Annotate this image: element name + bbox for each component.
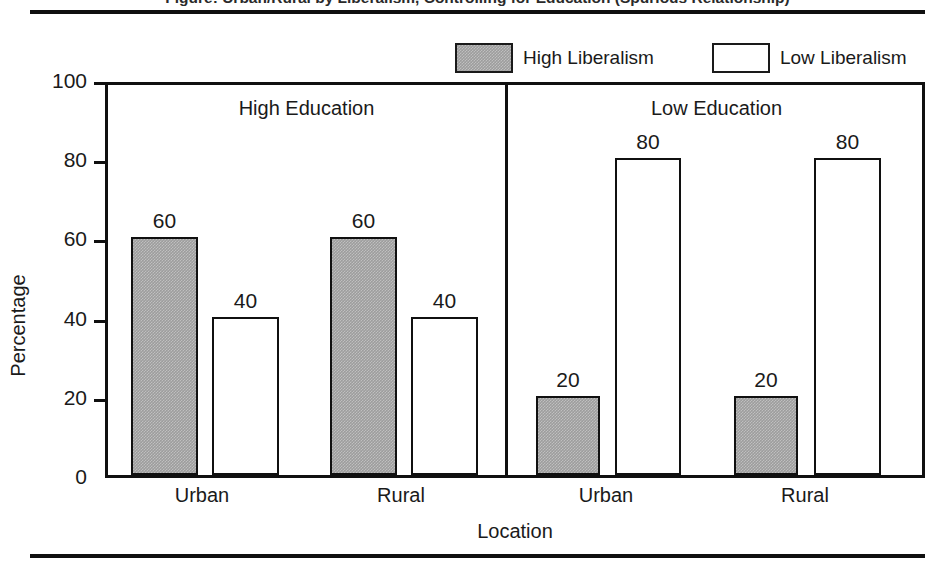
bar-value-label: 80 xyxy=(636,130,659,154)
bottom-rule xyxy=(30,554,925,558)
bar-low-education-rural-high-liberalism: 20 xyxy=(734,396,798,475)
bar-value-label: 40 xyxy=(234,289,257,313)
bar-low-education-urban-high-liberalism: 20 xyxy=(536,396,600,475)
x-label-low-education-rural: Rural xyxy=(781,484,829,507)
y-tick-label-80: 80 xyxy=(64,148,87,172)
bar-high-education-urban-high-liberalism: 60 xyxy=(131,237,198,475)
bar-value-label: 60 xyxy=(153,209,176,233)
legend-label-low-liberalism: Low Liberalism xyxy=(780,47,907,69)
y-tick-mark xyxy=(94,240,105,243)
legend-item-high-liberalism: High Liberalism xyxy=(455,43,654,73)
y-axis: 100 80 60 40 20 0 Percentage xyxy=(0,82,105,478)
plot-area: High Education Low Education 60 40 60 40… xyxy=(105,82,925,478)
y-axis-title: Percentage xyxy=(7,216,30,436)
bar-value-label: 20 xyxy=(754,368,777,392)
bar-high-education-rural-low-liberalism: 40 xyxy=(411,317,478,475)
y-tick-label-40: 40 xyxy=(64,307,87,331)
bar-value-label: 20 xyxy=(556,368,579,392)
y-tick-0: 0 xyxy=(0,478,105,479)
plot-inner: High Education Low Education 60 40 60 40… xyxy=(108,85,922,475)
y-tick-mark xyxy=(94,82,105,85)
bar-value-label: 80 xyxy=(836,130,859,154)
legend-swatch-white-icon xyxy=(712,43,770,73)
legend-item-low-liberalism: Low Liberalism xyxy=(712,43,907,73)
y-tick-mark xyxy=(94,161,105,164)
bar-low-education-rural-low-liberalism: 80 xyxy=(814,158,881,475)
y-tick-label-0: 0 xyxy=(75,465,87,489)
x-label-low-education-urban: Urban xyxy=(579,484,633,507)
top-rule xyxy=(30,10,925,14)
panel-divider xyxy=(505,85,508,475)
figure-title-clipped: Figure: Urban/Rural by Liberalism, Contr… xyxy=(30,0,925,8)
x-label-high-education-rural: Rural xyxy=(377,484,425,507)
x-axis-labels: Urban Rural Urban Rural xyxy=(105,484,925,512)
legend-swatch-gray-icon xyxy=(455,43,513,73)
bar-value-label: 40 xyxy=(433,289,456,313)
figure-container: Figure: Urban/Rural by Liberalism, Contr… xyxy=(0,0,942,568)
panel-header-high-education: High Education xyxy=(108,97,505,120)
figure-title: Figure: Urban/Rural by Liberalism, Contr… xyxy=(30,0,925,8)
y-tick-label-100: 100 xyxy=(52,69,87,93)
y-tick-label-60: 60 xyxy=(64,227,87,251)
x-label-high-education-urban: Urban xyxy=(175,484,229,507)
y-tick-mark xyxy=(94,399,105,402)
bar-value-label: 60 xyxy=(352,209,375,233)
legend-label-high-liberalism: High Liberalism xyxy=(523,47,654,69)
panel-header-low-education: Low Education xyxy=(508,97,925,120)
bar-high-education-urban-low-liberalism: 40 xyxy=(212,317,279,475)
y-tick-mark xyxy=(94,320,105,323)
bar-high-education-rural-high-liberalism: 60 xyxy=(330,237,397,475)
y-tick-80: 80 xyxy=(0,161,105,162)
bar-low-education-urban-low-liberalism: 80 xyxy=(615,158,681,475)
y-tick-label-20: 20 xyxy=(64,386,87,410)
y-tick-100: 100 xyxy=(0,82,105,83)
chart-legend: High Liberalism Low Liberalism xyxy=(455,40,907,76)
x-axis-title: Location xyxy=(105,520,925,543)
